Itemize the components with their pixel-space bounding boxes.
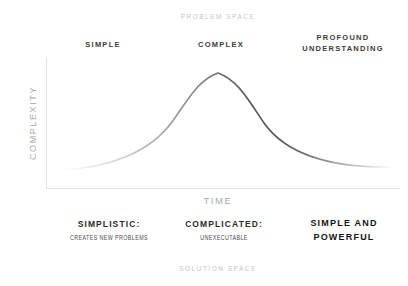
solution-title-simplistic: SIMPLISTIC: bbox=[78, 219, 141, 230]
solution-space-caption: SOLUTION SPACE bbox=[179, 265, 257, 273]
solution-title-complicated: COMPLICATED: bbox=[185, 219, 263, 230]
solution-subtitle-simplistic: CREATES NEW PROBLEMS bbox=[70, 234, 148, 242]
solution-subtitle-complicated: UNEXECUTABLE bbox=[200, 234, 247, 242]
complexity-curve-diagram: PROBLEM SPACE SIMPLE COMPLEX PROFOUND UN… bbox=[0, 0, 408, 286]
solution-title-simple-and-powerful: SIMPLE AND POWERFUL bbox=[279, 216, 408, 245]
curve-path bbox=[60, 73, 392, 170]
